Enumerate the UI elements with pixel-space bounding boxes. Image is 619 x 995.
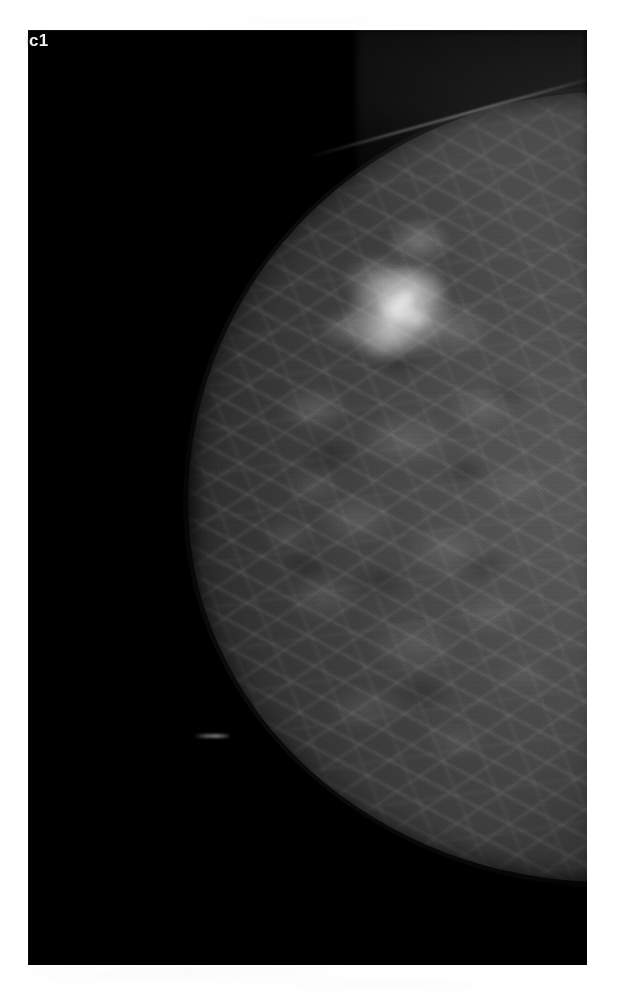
nipple-in-profile-marker [194,734,230,738]
glandular-nodular-texture [188,92,587,882]
radial-ductal-texture [188,92,587,882]
page-background: c1 [0,0,619,995]
figure-panel-label: c1 [29,32,49,49]
film-grain-texture [188,92,587,882]
mammogram-image [28,30,587,965]
fat-lobule-texture [188,92,587,882]
breast-parenchyma [188,92,587,882]
trabecular-strand-texture [188,92,587,882]
breast-region [28,30,587,965]
